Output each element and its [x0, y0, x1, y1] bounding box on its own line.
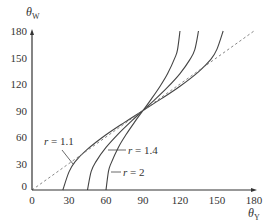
x-tick-label: 150 [209, 194, 226, 206]
chart: 0306090120150180 0306090120150180 θW θY … [0, 0, 278, 223]
y-tick-label: 60 [16, 131, 28, 143]
label-r-1-1: r = 1.1 [44, 135, 74, 164]
x-tick-label: 90 [138, 194, 150, 206]
x-tick-label: 0 [29, 194, 35, 206]
x-tick-labels: 0306090120150180 [29, 194, 263, 206]
y-tick-label: 0 [22, 180, 28, 192]
y-tick-labels: 0306090120150180 [11, 25, 28, 192]
y-tick-label: 150 [11, 52, 28, 64]
x-tick-label: 180 [246, 194, 263, 206]
x-tick-label: 120 [172, 194, 189, 206]
y-tick-label: 120 [11, 78, 28, 90]
y-axis-arrow-icon [30, 29, 34, 35]
leader-line-r-1-1 [62, 150, 73, 164]
y-tick-label: 90 [16, 105, 28, 117]
x-tick-label: 60 [101, 194, 113, 206]
svg-text:r = 2: r = 2 [123, 166, 145, 178]
x-axis-label: θY [248, 206, 260, 222]
x-axis-arrow-icon [251, 188, 257, 192]
y-tick-label: 180 [11, 25, 28, 37]
svg-text:r = 1.4: r = 1.4 [128, 144, 158, 156]
svg-text:r = 1.1: r = 1.1 [44, 135, 74, 147]
y-tick-label: 30 [16, 158, 28, 170]
label-r-2: r = 2 [111, 166, 145, 178]
x-tick-label: 30 [64, 194, 76, 206]
y-axis-label: θW [26, 5, 40, 21]
